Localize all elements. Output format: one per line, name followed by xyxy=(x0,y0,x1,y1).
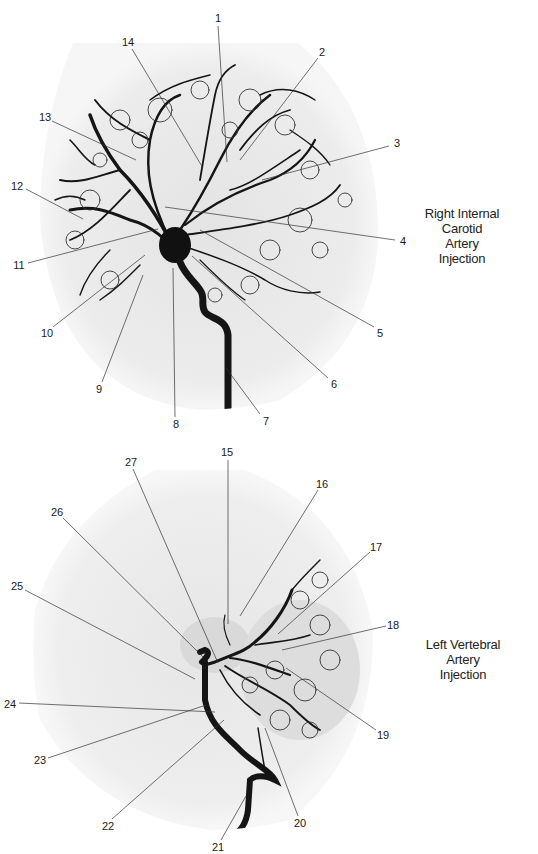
label-7: 7 xyxy=(263,416,269,427)
label-23: 23 xyxy=(34,755,46,766)
label-24: 24 xyxy=(4,699,16,710)
label-21: 21 xyxy=(212,842,224,853)
panel-left-vertebral: 15 16 17 18 19 20 21 22 23 24 25 26 27 L… xyxy=(0,430,538,854)
label-12: 12 xyxy=(11,181,23,192)
label-13: 13 xyxy=(39,112,51,123)
label-6: 6 xyxy=(331,379,337,390)
caption-line-1: Left Vertebral Artery xyxy=(426,637,501,667)
label-10: 10 xyxy=(41,328,53,339)
label-20: 20 xyxy=(294,818,306,829)
label-9: 9 xyxy=(96,384,102,395)
caption-line-1: Right Internal Carotid xyxy=(424,206,500,236)
label-3: 3 xyxy=(394,138,400,149)
panel-right-internal-carotid: 1 2 3 4 5 6 7 8 9 10 11 12 13 14 Right I… xyxy=(0,0,538,430)
label-4: 4 xyxy=(400,236,406,247)
caption-line-2: Injection xyxy=(426,667,501,682)
label-16: 16 xyxy=(316,479,328,490)
label-17: 17 xyxy=(370,542,382,553)
label-18: 18 xyxy=(387,620,399,631)
caption-right-internal-carotid: Right Internal Carotid Artery Injection xyxy=(424,206,500,266)
label-14: 14 xyxy=(122,37,134,48)
label-1: 1 xyxy=(215,13,221,24)
label-2: 2 xyxy=(319,47,325,58)
label-11: 11 xyxy=(13,260,24,271)
label-15: 15 xyxy=(221,447,233,458)
label-8: 8 xyxy=(173,419,179,430)
caption-line-2: Artery Injection xyxy=(424,236,500,266)
caption-left-vertebral: Left Vertebral Artery Injection xyxy=(426,637,501,682)
label-27: 27 xyxy=(125,457,137,468)
label-26: 26 xyxy=(51,507,63,518)
label-25: 25 xyxy=(11,581,23,592)
label-5: 5 xyxy=(377,328,383,339)
label-22: 22 xyxy=(102,821,114,832)
label-19: 19 xyxy=(377,730,389,741)
